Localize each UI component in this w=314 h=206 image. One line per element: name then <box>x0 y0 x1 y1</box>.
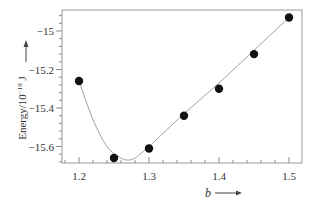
x-axis-ticks <box>65 157 289 163</box>
y-axis-title: Energy/10−19 J <box>16 75 28 139</box>
y-axis-arrow-icon <box>24 40 29 62</box>
x-tick-label: 1.4 <box>212 170 226 182</box>
x-tick-label: 1.3 <box>142 170 156 182</box>
data-point-marker <box>285 13 293 21</box>
x-axis-arrowhead-icon <box>236 191 242 196</box>
data-points <box>75 13 293 162</box>
y-tick-label: −15 <box>37 25 55 37</box>
data-point-marker <box>215 85 223 93</box>
x-tick-label: 1.5 <box>282 170 296 182</box>
y-tick-label: −15.4 <box>29 102 55 114</box>
y-tick-label: −15.6 <box>29 141 55 153</box>
y-tick-label: −15.2 <box>29 64 54 76</box>
x-axis-title: b <box>205 186 242 200</box>
data-point-marker <box>180 112 188 120</box>
x-axis-tick-labels: 1.21.31.41.5 <box>72 170 296 182</box>
x-axis-title-text: b <box>205 186 211 200</box>
x-tick-label: 1.2 <box>72 170 86 182</box>
data-point-marker <box>75 77 83 85</box>
y-axis-ticks <box>56 16 62 162</box>
energy-vs-b-chart: 1.21.31.41.5 −15−15.2−15.4−15.6 b Energy… <box>0 0 314 206</box>
plot-frame <box>62 10 302 163</box>
data-point-marker <box>145 144 153 152</box>
y-axis-title-text: Energy/10−19 J <box>16 75 28 139</box>
data-point-marker <box>250 50 258 58</box>
y-axis-tick-labels: −15−15.2−15.4−15.6 <box>29 25 55 153</box>
data-point-marker <box>110 154 118 162</box>
fitted-curve <box>79 18 289 160</box>
